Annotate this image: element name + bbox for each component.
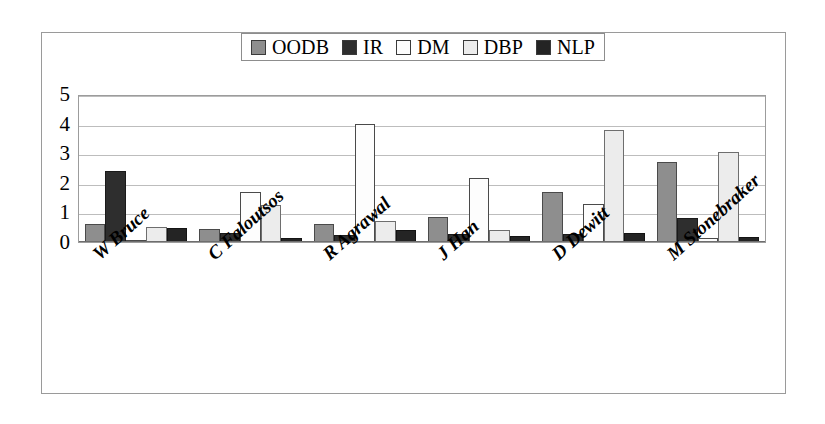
legend-item-ir[interactable]: IR	[342, 37, 383, 57]
y-tick-label: 5	[30, 84, 70, 105]
y-tick-label: 3	[30, 143, 70, 164]
legend-item-dbp[interactable]: DBP	[463, 37, 523, 57]
legend-swatch-icon	[251, 40, 266, 55]
y-axis-labels: 012345	[14, 95, 70, 243]
plot-area	[78, 95, 766, 243]
legend-swatch-icon	[536, 40, 551, 55]
legend-label: IR	[363, 37, 383, 57]
chart-legend: OODBIRDMDBPNLP	[241, 33, 605, 61]
legend-item-oodb[interactable]: OODB	[251, 37, 329, 57]
y-tick-label: 4	[30, 114, 70, 135]
y-tick-label: 1	[30, 202, 70, 223]
bar-nlp[interactable]	[167, 228, 187, 242]
bar-dbp[interactable]	[375, 221, 395, 242]
bar-oodb[interactable]	[657, 162, 677, 242]
bar-dbp[interactable]	[604, 130, 624, 242]
legend-item-nlp[interactable]: NLP	[536, 37, 595, 57]
legend-swatch-icon	[396, 40, 411, 55]
y-tick-label: 0	[30, 232, 70, 253]
legend-label: NLP	[557, 37, 595, 57]
legend-swatch-icon	[463, 40, 478, 55]
legend-label: OODB	[272, 37, 329, 57]
legend-label: DBP	[484, 37, 523, 57]
chart-screenshot: OODBIRDMDBPNLP 012345 W BruceC Faloutsos…	[0, 0, 825, 424]
legend-item-dm[interactable]: DM	[396, 37, 449, 57]
bar-oodb[interactable]	[542, 192, 562, 242]
bar-dbp[interactable]	[146, 227, 166, 242]
x-axis-line	[79, 241, 765, 242]
bar-group	[422, 96, 536, 242]
legend-swatch-icon	[342, 40, 357, 55]
legend-label: DM	[417, 37, 449, 57]
y-tick-label: 2	[30, 173, 70, 194]
bar-groups	[79, 96, 765, 242]
